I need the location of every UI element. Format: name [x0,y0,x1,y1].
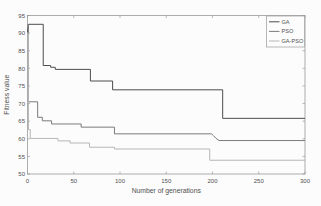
x-tick-label: 0 [26,178,30,184]
series-line-ga [28,24,306,118]
legend-label: GA-PSO [282,38,304,44]
fitness-convergence-chart: 05010015020025030050556065707580859095Nu… [0,0,321,206]
x-tick-label: 50 [70,178,77,184]
y-tick-label: 95 [18,13,25,19]
y-tick-label: 80 [18,66,25,72]
y-axis-label: Fitness value [3,75,10,115]
y-tick-label: 75 [18,83,25,89]
y-tick-label: 90 [18,30,25,36]
x-tick-label: 250 [254,178,265,184]
series-line-pso [28,25,306,141]
legend-label: GA [282,19,290,25]
x-tick-label: 150 [161,178,172,184]
x-axis-label: Number of generations [132,187,202,195]
plot-area-border [28,16,306,175]
y-tick-label: 55 [18,154,25,160]
y-tick-label: 70 [18,101,25,107]
x-tick-label: 300 [300,178,311,184]
legend: GAPSOGA-PSO [267,16,305,47]
y-tick-label: 85 [18,48,25,54]
y-tick-label: 65 [18,118,25,124]
series-line-ga-pso [28,33,306,160]
x-tick-label: 200 [207,178,218,184]
y-tick-label: 60 [18,136,25,142]
legend-label: PSO [282,28,294,34]
chart-canvas: 05010015020025030050556065707580859095Nu… [0,0,321,206]
y-tick-label: 50 [18,171,25,177]
x-tick-label: 100 [115,178,126,184]
